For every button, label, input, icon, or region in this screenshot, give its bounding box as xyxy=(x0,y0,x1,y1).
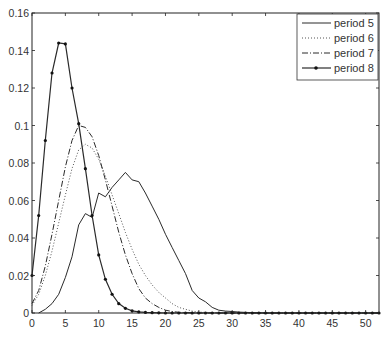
y-tick-label: 0.02 xyxy=(9,270,30,282)
x-tick-label: 20 xyxy=(160,317,172,329)
data-point-marker xyxy=(110,293,113,296)
data-point-marker xyxy=(70,86,73,89)
y-tick-label: 0.14 xyxy=(9,45,30,57)
y-tick-label: 0 xyxy=(23,307,29,319)
data-point-marker xyxy=(37,214,40,217)
x-tick-label: 25 xyxy=(193,317,205,329)
legend-label: period 6 xyxy=(334,32,374,44)
x-tick-label: 50 xyxy=(360,317,372,329)
data-point-marker xyxy=(97,253,100,256)
data-point-marker xyxy=(50,71,53,74)
x-tick-label: 35 xyxy=(260,317,272,329)
legend-label: period 8 xyxy=(334,62,374,74)
legend-label: period 5 xyxy=(334,17,374,29)
x-tick-label: 40 xyxy=(293,317,305,329)
data-point-marker xyxy=(84,167,87,170)
data-point-marker xyxy=(90,214,93,217)
data-point-marker xyxy=(144,311,147,314)
data-point-marker xyxy=(44,139,47,142)
x-tick-label: 15 xyxy=(126,317,138,329)
legend: period 5 period 6 period 7 period 8 xyxy=(297,14,378,80)
data-point-marker xyxy=(104,278,107,281)
data-point-marker xyxy=(57,41,60,44)
y-tick-label: 0.08 xyxy=(9,157,30,169)
x-tick-label: 45 xyxy=(326,317,338,329)
y-tick-label: 0.12 xyxy=(9,82,30,94)
data-point-marker xyxy=(124,307,127,310)
data-point-marker xyxy=(117,302,120,305)
legend-label: period 7 xyxy=(334,47,374,59)
y-tick-label: 0.06 xyxy=(9,195,30,207)
data-point-marker xyxy=(77,122,80,125)
y-tick-label: 0.16 xyxy=(9,7,30,19)
x-tick-label: 0 xyxy=(29,317,35,329)
y-tick-label: 0.04 xyxy=(9,232,30,244)
data-point-marker xyxy=(64,42,67,45)
line-chart: 05101520253035404550 00.020.040.060.080.… xyxy=(0,0,388,338)
dot-marker-icon xyxy=(314,66,318,70)
y-tick-label: 0.1 xyxy=(14,120,29,132)
x-tick-label: 10 xyxy=(93,317,105,329)
x-tick-label: 5 xyxy=(62,317,68,329)
x-tick-label: 30 xyxy=(226,317,238,329)
